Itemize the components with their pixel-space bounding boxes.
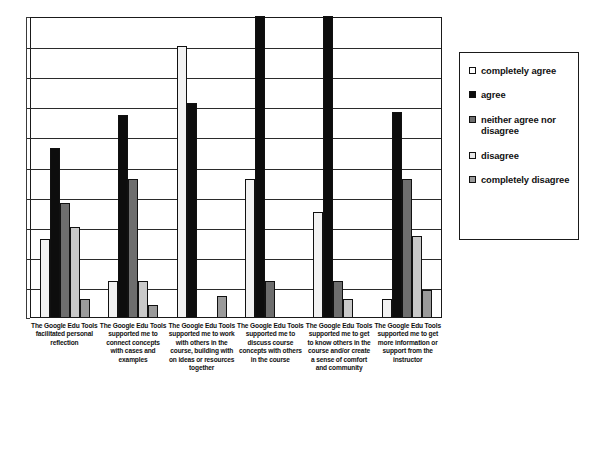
legend-label: disagree (481, 150, 519, 161)
x-axis-labels: The Google Edu Tools facilitated persona… (30, 322, 442, 372)
legend-label: completely disagree (481, 174, 569, 185)
plot-area (30, 17, 442, 318)
legend-swatch-icon (469, 152, 476, 159)
bar-group (168, 18, 236, 317)
bar (392, 112, 402, 317)
bar (255, 16, 265, 317)
bar (80, 299, 90, 317)
bar (333, 281, 343, 317)
bar (50, 148, 60, 317)
legend-item[interactable]: agree (469, 89, 578, 100)
bar (265, 281, 275, 317)
bar (313, 212, 323, 317)
bar-chart: The Google Edu Tools facilitated persona… (0, 0, 612, 454)
bar (343, 299, 353, 317)
bar (128, 179, 138, 317)
chart-legend: completely agreeagreeneither agree nor d… (459, 52, 579, 240)
legend-swatch-icon (469, 116, 476, 123)
bar (138, 281, 148, 317)
legend-swatch-icon (469, 67, 476, 74)
bar-group (304, 18, 372, 317)
legend-swatch-icon (469, 91, 476, 98)
bar (217, 296, 227, 317)
x-axis-label: The Google Edu Tools supported me to con… (99, 322, 168, 372)
bar (60, 203, 70, 317)
x-axis-label: The Google Edu Tools supported me to dis… (236, 322, 305, 372)
bar (402, 179, 412, 317)
bar (40, 239, 50, 317)
x-axis-label: The Google Edu Tools supported me to get… (305, 322, 374, 372)
bar-group (31, 18, 99, 317)
bar (148, 305, 158, 317)
bar (187, 103, 197, 317)
x-axis-label: The Google Edu Tools facilitated persona… (30, 322, 99, 372)
bar (108, 281, 118, 317)
legend-item[interactable]: completely agree (469, 65, 578, 76)
bar-group (373, 18, 441, 317)
bar-group (99, 18, 167, 317)
legend-items: completely agreeagreeneither agree nor d… (469, 65, 578, 185)
x-axis-label: The Google Edu Tools supported me to get… (373, 322, 442, 372)
bar (245, 179, 255, 317)
bar (177, 46, 187, 317)
bar-group (236, 18, 304, 317)
bar (70, 227, 80, 317)
bar (118, 115, 128, 317)
legend-label: neither agree nor disagree (481, 114, 578, 137)
legend-item[interactable]: completely disagree (469, 174, 578, 185)
bar (323, 16, 333, 317)
legend-label: agree (481, 89, 506, 100)
bars-layer (31, 18, 441, 317)
legend-item[interactable]: disagree (469, 150, 578, 161)
bar (382, 299, 392, 317)
legend-swatch-icon (469, 176, 476, 183)
bar (422, 290, 432, 317)
legend-label: completely agree (481, 65, 556, 76)
bar (412, 236, 422, 317)
x-axis-label: The Google Edu Tools supported me to wor… (167, 322, 236, 372)
legend-item[interactable]: neither agree nor disagree (469, 114, 578, 137)
